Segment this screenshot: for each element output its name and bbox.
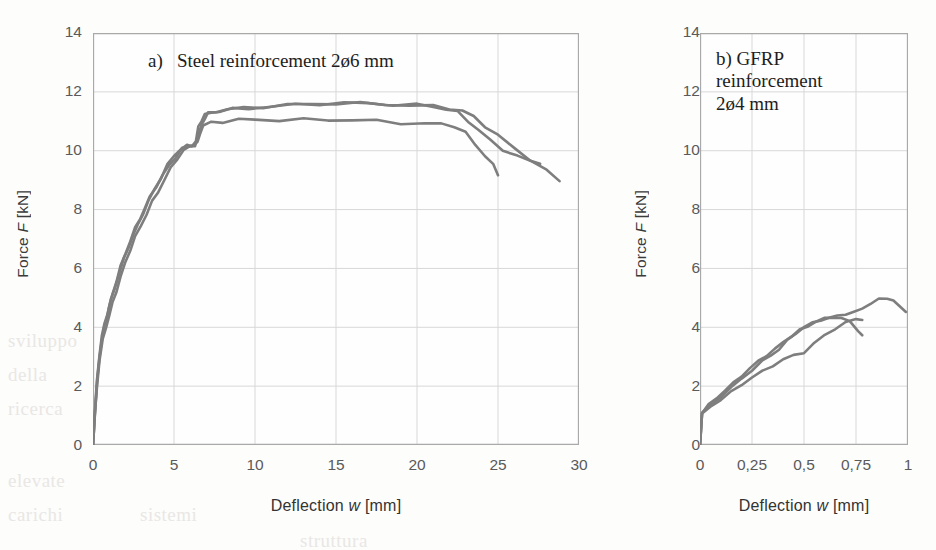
chart-title-b: b) GFRP reinforcement 2ø4 mm <box>716 48 823 115</box>
y-axis-label-a: Force F [kN] <box>14 190 32 278</box>
x-axis-label-a: Deflection w [mm] <box>93 497 579 515</box>
y-tick-a-8: 8 <box>40 200 82 218</box>
plot-area-a <box>93 33 579 445</box>
y-axis-label-b: Force F [kN] <box>632 190 650 278</box>
y-tick-a-14: 14 <box>40 23 82 41</box>
x-tick-a-20: 20 <box>387 456 447 474</box>
x-tick-a-10: 10 <box>225 456 285 474</box>
y-tick-a-4: 4 <box>40 318 82 336</box>
y-tick-b-12: 12 <box>658 82 700 100</box>
y-tick-a-0: 0 <box>40 436 82 454</box>
y-tick-a-10: 10 <box>40 141 82 159</box>
x-tick-b-075: 0,75 <box>826 456 886 474</box>
x-tick-a-0: 0 <box>63 456 123 474</box>
x-tick-b-025: 0,25 <box>722 456 782 474</box>
y-tick-a-2: 2 <box>40 377 82 395</box>
y-tick-a-6: 6 <box>40 259 82 277</box>
y-tick-b-14: 14 <box>658 23 700 41</box>
x-tick-b-05: 0,5 <box>774 456 834 474</box>
figure-page: sviluppo della ricerca elevate carichi s… <box>0 0 936 550</box>
y-tick-b-10: 10 <box>658 141 700 159</box>
x-tick-a-30: 30 <box>549 456 609 474</box>
x-axis-label-b: Deflection w [mm] <box>696 497 912 515</box>
y-tick-a-12: 12 <box>40 82 82 100</box>
x-tick-a-5: 5 <box>144 456 204 474</box>
x-tick-a-25: 25 <box>468 456 528 474</box>
chart-panel-a: Force F [kN] 14 12 10 8 6 4 2 0 <box>0 0 600 550</box>
chart-panel-b: Force F [kN] 14 12 10 8 6 4 2 0 <box>610 0 936 550</box>
y-tick-b-6: 6 <box>658 259 700 277</box>
x-tick-b-1: 1 <box>878 456 936 474</box>
x-tick-a-15: 15 <box>306 456 366 474</box>
y-tick-b-0: 0 <box>658 436 700 454</box>
x-tick-b-0: 0 <box>670 456 730 474</box>
y-tick-b-8: 8 <box>658 200 700 218</box>
chart-title-a: a) Steel reinforcement 2ø6 mm <box>148 50 394 72</box>
y-tick-b-4: 4 <box>658 318 700 336</box>
y-tick-b-2: 2 <box>658 377 700 395</box>
